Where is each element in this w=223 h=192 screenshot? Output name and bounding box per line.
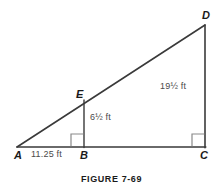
dimension-label-dc: 19½ ft (160, 82, 186, 91)
vertex-label-c: C (200, 150, 208, 161)
right-angle-marker-c (192, 134, 204, 146)
figure-caption: FIGURE 7-69 (0, 174, 223, 184)
vertex-label-e: E (76, 89, 83, 100)
dimension-label-ab: 11.25 ft (31, 150, 62, 159)
vertex-label-b: B (80, 150, 88, 161)
geometry-diagram (0, 0, 223, 192)
vertex-label-a: A (14, 150, 22, 161)
right-angle-marker-b (71, 134, 83, 146)
figure-container: A B C D E 11.25 ft 6½ ft 19½ ft FIGURE 7… (0, 0, 223, 192)
vertex-label-d: D (202, 10, 210, 21)
dimension-label-eb: 6½ ft (90, 113, 111, 122)
